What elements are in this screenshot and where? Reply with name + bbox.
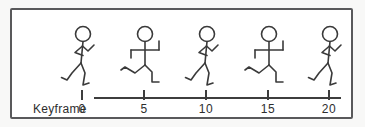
figure-limbs xyxy=(330,45,342,51)
figure-limbs xyxy=(328,63,336,85)
figure-limbs xyxy=(83,45,95,51)
figure-head xyxy=(138,27,153,42)
figure-limbs xyxy=(269,65,283,82)
figure-limbs xyxy=(62,63,82,80)
axis-line xyxy=(94,97,341,99)
figure-limbs xyxy=(207,45,219,51)
figure-head xyxy=(262,27,277,42)
stick-figure-walk xyxy=(304,25,356,91)
stick-figure-walk xyxy=(57,25,109,91)
axis-tick-label: 10 xyxy=(191,102,221,116)
axis-tick-label: 0 xyxy=(67,102,97,116)
figure-limbs xyxy=(186,63,206,80)
axis-tick xyxy=(143,90,145,100)
axis-tick xyxy=(267,90,269,100)
axis-tick-label: 20 xyxy=(314,102,344,116)
stick-figure-run xyxy=(243,25,295,91)
figure-limbs xyxy=(145,65,159,82)
axis-tick xyxy=(205,90,207,100)
keyframe-diagram: Keyframe 05101520 xyxy=(0,0,365,127)
figure-head xyxy=(76,27,91,42)
figure-head xyxy=(323,27,338,42)
figure-limbs xyxy=(205,42,207,64)
axis-tick-label: 5 xyxy=(129,102,159,116)
axis-tick xyxy=(81,90,83,100)
figure-limbs xyxy=(205,63,213,85)
figure-limbs xyxy=(328,42,330,64)
figure-limbs xyxy=(81,63,89,85)
stick-figure-walk xyxy=(181,25,233,91)
figure-limbs xyxy=(121,65,145,73)
diagram-panel: Keyframe 05101520 xyxy=(10,8,353,119)
axis-tick xyxy=(328,90,330,100)
axis-tick-label: 15 xyxy=(253,102,283,116)
figure-limbs xyxy=(309,63,329,80)
figure-limbs xyxy=(245,65,269,73)
figure-limbs xyxy=(81,42,83,64)
figure-head xyxy=(200,27,215,42)
stick-figure-run xyxy=(119,25,171,91)
